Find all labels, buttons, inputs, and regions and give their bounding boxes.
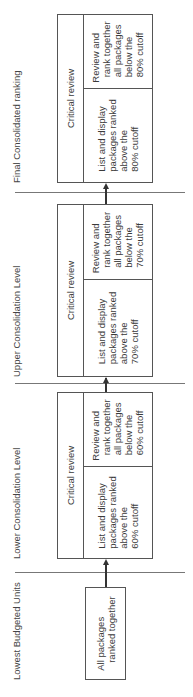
- arrow-head-icon: [103, 377, 109, 383]
- arrow-head-icon: [103, 559, 109, 565]
- box-final-ranking: Critical review List and display package…: [57, 14, 153, 183]
- above-cutoff-cell: List and display packages ranked above t…: [83, 88, 152, 182]
- box-lower-consolidation: Critical review List and display package…: [57, 392, 153, 559]
- above-cutoff-cell: List and display packages ranked above t…: [83, 279, 152, 376]
- below-cutoff-cell: Review and rank together all packages be…: [83, 205, 152, 280]
- level-label-lower: Lower Consolidation Level: [11, 448, 22, 559]
- box-lowest-text: All packages ranked together: [95, 596, 117, 670]
- critical-review-header: Critical review: [58, 15, 84, 182]
- critical-review-header: Critical review: [58, 393, 84, 558]
- below-cutoff-cell: Review and rank together all packages be…: [83, 15, 152, 89]
- box-lowest-budgeted: All packages ranked together: [85, 587, 126, 680]
- level-divider: [15, 572, 185, 573]
- level-divider: [15, 383, 185, 384]
- above-cutoff-cell: List and display packages ranked above t…: [83, 466, 152, 558]
- box-upper-consolidation: Critical review List and display package…: [57, 204, 153, 377]
- consolidation-ranking-diagram: Lowest Budgeted Units Lower Consolidatio…: [0, 0, 193, 697]
- below-cutoff-cell: Review and rank together all packages be…: [83, 393, 152, 467]
- level-divider: [15, 192, 185, 193]
- level-label-final: Final Consolidated ranking: [11, 71, 22, 183]
- level-label-lowest: Lowest Budgeted Units: [11, 582, 22, 680]
- level-label-upper: Upper Consolidation Level: [11, 266, 22, 377]
- arrow-head-icon: [103, 183, 109, 189]
- critical-review-header: Critical review: [58, 205, 84, 376]
